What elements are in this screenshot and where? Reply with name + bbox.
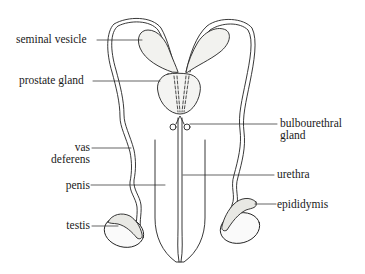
label-prostate-gland: prostate gland	[19, 74, 84, 86]
reproductive-system-diagram: seminal vesicle prostate gland bulbouret…	[0, 0, 365, 274]
label-epididymis: epididymis	[277, 198, 328, 210]
label-bulbourethral-gland-line2: gland	[280, 129, 306, 141]
label-bulbourethral-gland-line1: bulbourethral	[280, 117, 342, 129]
label-vas-deferens-line1: vas	[45, 141, 90, 153]
left-seminal-vesicle	[138, 30, 178, 72]
label-vas-deferens-line2: deferens	[40, 153, 90, 165]
penis-outline	[155, 140, 205, 262]
bulbourethral-glands	[170, 116, 190, 130]
label-penis: penis	[50, 179, 90, 191]
label-urethra: urethra	[277, 168, 310, 180]
label-testis: testis	[50, 219, 90, 231]
prostate-gland	[157, 73, 200, 114]
label-seminal-vesicle: seminal vesicle	[16, 33, 87, 45]
urethra	[178, 118, 183, 262]
